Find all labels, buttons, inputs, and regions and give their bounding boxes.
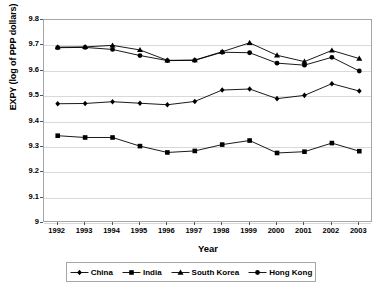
data-point	[83, 135, 88, 140]
x-tick-mark	[194, 222, 195, 225]
data-point	[192, 99, 197, 105]
data-point	[302, 149, 307, 154]
x-tick-mark	[303, 222, 304, 225]
data-point	[165, 102, 170, 108]
series-line	[58, 136, 360, 153]
data-point	[357, 88, 362, 94]
x-tick-mark	[166, 222, 167, 225]
y-tick-label: 9.6	[5, 66, 39, 74]
legend-item-south-korea[interactable]: South Korea	[171, 268, 240, 277]
legend-item-hong-kong[interactable]: Hong Kong	[248, 268, 312, 277]
data-point	[329, 55, 334, 60]
data-point	[165, 150, 170, 155]
legend-item-india[interactable]: India	[122, 268, 162, 277]
series-line	[58, 47, 360, 71]
x-tick-mark	[84, 222, 85, 225]
x-tick-label: 2003	[341, 226, 375, 235]
legend-label: Hong Kong	[269, 268, 312, 277]
data-point	[138, 100, 143, 106]
legend-item-china[interactable]: China	[70, 268, 113, 277]
x-tick-mark	[139, 222, 140, 225]
x-axis-title: Year	[43, 243, 373, 254]
legend-label: India	[143, 268, 162, 277]
data-point	[55, 101, 60, 107]
data-point	[83, 45, 88, 50]
y-tick-mark	[40, 44, 43, 45]
series-line	[58, 84, 360, 105]
data-point	[55, 45, 60, 50]
data-point	[247, 138, 252, 143]
y-tick-label: 9.8	[5, 15, 39, 23]
plot-svg	[44, 20, 373, 223]
data-point	[247, 40, 253, 45]
y-tick-label: 9.4	[5, 117, 39, 125]
data-point	[110, 42, 116, 47]
y-tick-label: 9.1	[5, 193, 39, 201]
data-point	[220, 87, 225, 93]
data-point	[110, 135, 115, 140]
data-point	[329, 47, 335, 52]
data-point	[165, 58, 170, 63]
data-point	[275, 61, 280, 66]
y-tick-mark	[40, 171, 43, 172]
series-india	[55, 133, 361, 155]
y-tick-mark	[40, 222, 43, 223]
y-tick-mark	[40, 121, 43, 122]
y-tick-mark	[40, 70, 43, 71]
y-tick-label: 9.2	[5, 167, 39, 175]
x-tick-mark	[358, 222, 359, 225]
data-point	[110, 99, 115, 105]
series-south-korea	[55, 40, 363, 64]
x-tick-mark	[221, 222, 222, 225]
data-point	[274, 52, 280, 57]
y-tick-label: 9.5	[5, 91, 39, 99]
x-tick-mark	[276, 222, 277, 225]
data-point	[138, 53, 143, 58]
y-tick-mark	[40, 146, 43, 147]
data-point	[220, 50, 225, 55]
data-point	[302, 63, 307, 68]
y-tick-mark	[40, 19, 43, 20]
x-tick-mark	[331, 222, 332, 225]
data-point	[357, 69, 362, 74]
data-point	[357, 149, 362, 154]
chart-legend: ChinaIndiaSouth KoreaHong Kong	[66, 262, 316, 282]
series-hong-kong	[55, 45, 361, 73]
line-chart-figure: EXPY (log of PPP dollars) 9.89.79.69.59.…	[0, 0, 379, 294]
data-point	[247, 86, 252, 92]
data-point	[247, 50, 252, 55]
x-tick-mark	[112, 222, 113, 225]
data-point	[55, 133, 60, 138]
data-point	[192, 58, 197, 63]
gridline	[44, 223, 371, 224]
data-point	[275, 96, 280, 102]
y-tick-mark	[40, 197, 43, 198]
triangle-marker-icon	[171, 268, 190, 277]
y-tick-label: 9.3	[5, 142, 39, 150]
data-point	[83, 101, 88, 107]
data-point	[330, 141, 335, 146]
series-china	[55, 81, 361, 108]
data-point	[275, 151, 280, 156]
data-point	[302, 93, 307, 99]
plot-area	[43, 19, 372, 222]
x-tick-mark	[57, 222, 58, 225]
x-tick-mark	[249, 222, 250, 225]
legend-label: South Korea	[192, 268, 240, 277]
y-tick-label: 9.7	[5, 40, 39, 48]
legend-label: China	[91, 268, 113, 277]
y-tick-mark	[40, 95, 43, 96]
diamond-marker-icon	[70, 268, 89, 277]
circle-marker-icon	[248, 268, 267, 277]
data-point	[192, 149, 197, 154]
data-point	[110, 47, 115, 52]
data-point	[220, 142, 225, 147]
series-line	[58, 43, 360, 62]
data-point	[329, 81, 334, 87]
y-tick-label: 9	[5, 218, 39, 226]
square-marker-icon	[122, 268, 141, 277]
data-point	[138, 144, 143, 149]
